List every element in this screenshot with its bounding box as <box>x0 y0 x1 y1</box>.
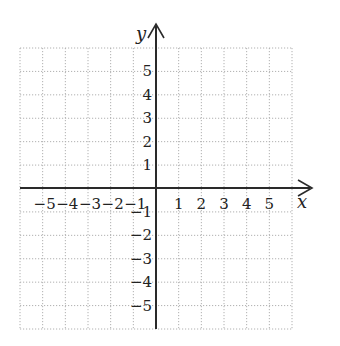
x-tick-label: −3 <box>79 195 101 213</box>
coordinate-plane: x y 12345−5−4−3−2−1 12345−1−2−3−4−5 <box>0 0 340 346</box>
x-tick-labels: 12345−5−4−3−2−1 <box>34 195 275 213</box>
y-tick-label: −3 <box>130 250 152 268</box>
y-tick-label: 5 <box>142 62 152 80</box>
y-tick-label: −2 <box>130 226 152 244</box>
x-tick-label: −2 <box>102 195 124 213</box>
x-tick-label: 5 <box>265 195 275 213</box>
axes <box>20 24 312 329</box>
y-axis-label: y <box>135 23 147 44</box>
y-tick-label: −5 <box>130 297 152 315</box>
y-tick-label: 2 <box>142 133 152 151</box>
x-tick-label: 4 <box>242 195 252 213</box>
y-tick-label: 4 <box>142 86 152 104</box>
y-tick-label: 1 <box>142 156 152 174</box>
y-tick-label: −1 <box>130 203 152 221</box>
x-tick-label: −4 <box>56 195 78 213</box>
x-tick-label: 3 <box>219 195 229 213</box>
x-tick-label: 1 <box>174 195 184 213</box>
x-axis-label: x <box>297 191 307 212</box>
x-tick-label: −5 <box>34 195 56 213</box>
y-tick-label: 3 <box>142 109 152 127</box>
x-tick-label: 2 <box>197 195 207 213</box>
y-tick-label: −4 <box>130 273 152 291</box>
